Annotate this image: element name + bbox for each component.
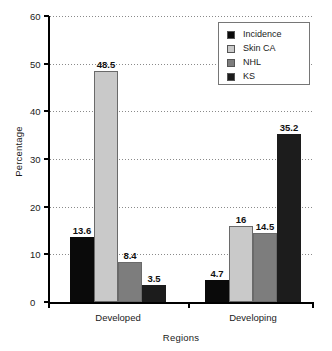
gridline [50,207,314,208]
y-tick-label: 40 [30,106,39,117]
x-axis-title: Regions [48,332,314,343]
legend-swatch-ks [227,73,235,81]
legend: Incidence Skin CA NHL KS [218,22,310,85]
bar: 35.2 [277,134,301,302]
y-tick-mark [44,110,49,112]
y-tick-label: 10 [30,249,39,260]
x-tick-mark [312,303,314,308]
legend-label-incidence: Incidence [243,30,282,39]
bar-value-label: 3.5 [147,273,160,284]
bar-value-label: 35.2 [280,122,299,133]
bar: 4.7 [205,280,229,302]
bar: 16 [229,226,253,302]
x-tick-mark [48,303,50,308]
y-tick-label: 50 [30,58,39,69]
y-tick-label: 0 [30,297,39,308]
gridline [50,159,314,160]
legend-item-skin-ca: Skin CA [227,42,309,55]
legend-swatch-nhl [227,59,235,67]
legend-label-ks: KS [243,72,255,81]
x-group-label: Developed [95,312,140,323]
y-tick-label: 60 [30,11,39,22]
y-tick-mark [44,158,49,160]
y-axis-title: Percentage [13,107,24,197]
y-tick-label: 30 [30,154,39,165]
x-tick-mark [188,303,190,308]
bar: 14.5 [253,233,277,302]
bar: 13.6 [70,237,94,302]
legend-label-skin-ca: Skin CA [243,44,276,53]
x-axis-line [48,302,314,304]
bar-chart: Percentage Regions 0102030405060 13.648.… [0,0,332,351]
legend-label-nhl: NHL [243,58,261,67]
gridline [50,111,314,112]
bar-value-label: 48.5 [97,59,116,70]
legend-item-incidence: Incidence [227,28,309,41]
y-tick-mark [44,253,49,255]
y-tick-mark [44,206,49,208]
y-tick-mark [44,63,49,65]
bar: 3.5 [142,285,166,302]
bar-value-label: 16 [236,214,247,225]
bar-value-label: 8.4 [123,250,136,261]
legend-item-ks: KS [227,70,309,83]
x-group-label: Developing [229,312,277,323]
y-tick-label: 20 [30,201,39,212]
bar-value-label: 13.6 [73,225,92,236]
bar-value-label: 4.7 [210,268,223,279]
y-tick-mark [44,15,49,17]
gridline [50,16,314,17]
bar-value-label: 14.5 [256,221,275,232]
bar: 8.4 [118,262,142,302]
legend-item-nhl: NHL [227,56,309,69]
bar: 48.5 [94,71,118,302]
legend-swatch-skin-ca [227,45,235,53]
legend-swatch-incidence [227,31,235,39]
